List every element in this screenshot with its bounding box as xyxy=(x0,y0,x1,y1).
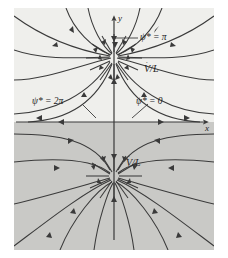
v-dot-upper: V ˙ xyxy=(144,64,150,74)
label-psi-pi: ψ* = π xyxy=(140,33,167,43)
label-flow-rate-upper: V ˙ /L xyxy=(144,64,158,74)
label-flow-rate-lower: V ˙ /L xyxy=(126,158,140,168)
figure-container: ψ* = π ψ* = 2π ψ* = 0 V ˙ /L V ˙ /L y x xyxy=(0,0,228,258)
streamline-upper-6 xyxy=(117,58,214,80)
plot-area: ψ* = π ψ* = 2π ψ* = 0 V ˙ /L V ˙ /L y x xyxy=(14,8,214,250)
streamline-lower-6 xyxy=(118,178,214,204)
label-psi-0: ψ* = 0 xyxy=(136,97,163,107)
streamline-upper-12 xyxy=(118,62,214,114)
label-x-axis: x xyxy=(205,124,209,133)
streamline-lower-3 xyxy=(14,160,110,173)
streamline-upper-3 xyxy=(14,58,111,80)
v-dot-lower: V ˙ xyxy=(126,158,132,168)
streamline-lower-5 xyxy=(14,178,110,204)
label-y-axis: y xyxy=(118,14,122,23)
streamlines-layer xyxy=(14,8,214,250)
streamline-upper-13 xyxy=(28,64,112,122)
label-psi-2pi: ψ* = 2π xyxy=(32,97,63,107)
